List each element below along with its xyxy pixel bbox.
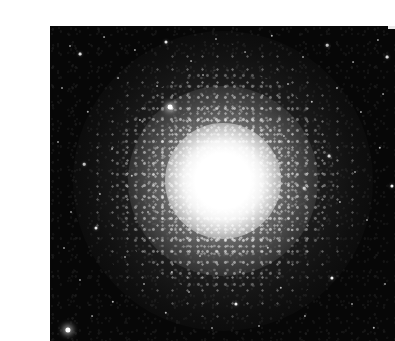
sky-grain-texture	[50, 26, 395, 341]
scan-edge-notch	[388, 26, 395, 29]
globular-cluster-photograph	[50, 26, 395, 341]
